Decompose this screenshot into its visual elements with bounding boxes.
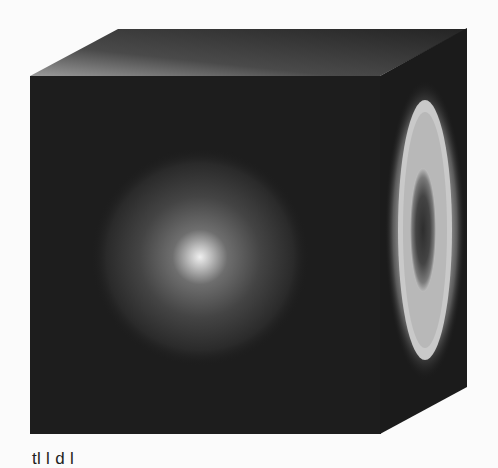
projected-ring xyxy=(385,80,465,380)
glowing-sphere xyxy=(90,147,310,367)
figure-caption-partial: tl l d l xyxy=(32,449,74,468)
